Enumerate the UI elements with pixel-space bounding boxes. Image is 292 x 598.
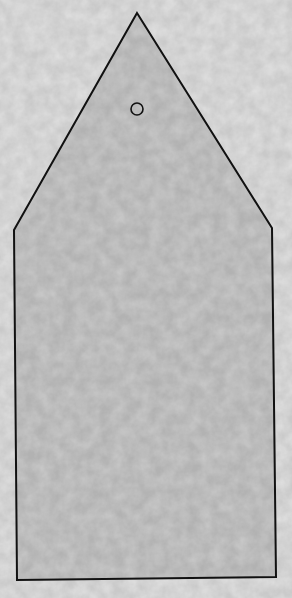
paper-background xyxy=(0,0,292,598)
tag-illustration xyxy=(0,0,292,598)
